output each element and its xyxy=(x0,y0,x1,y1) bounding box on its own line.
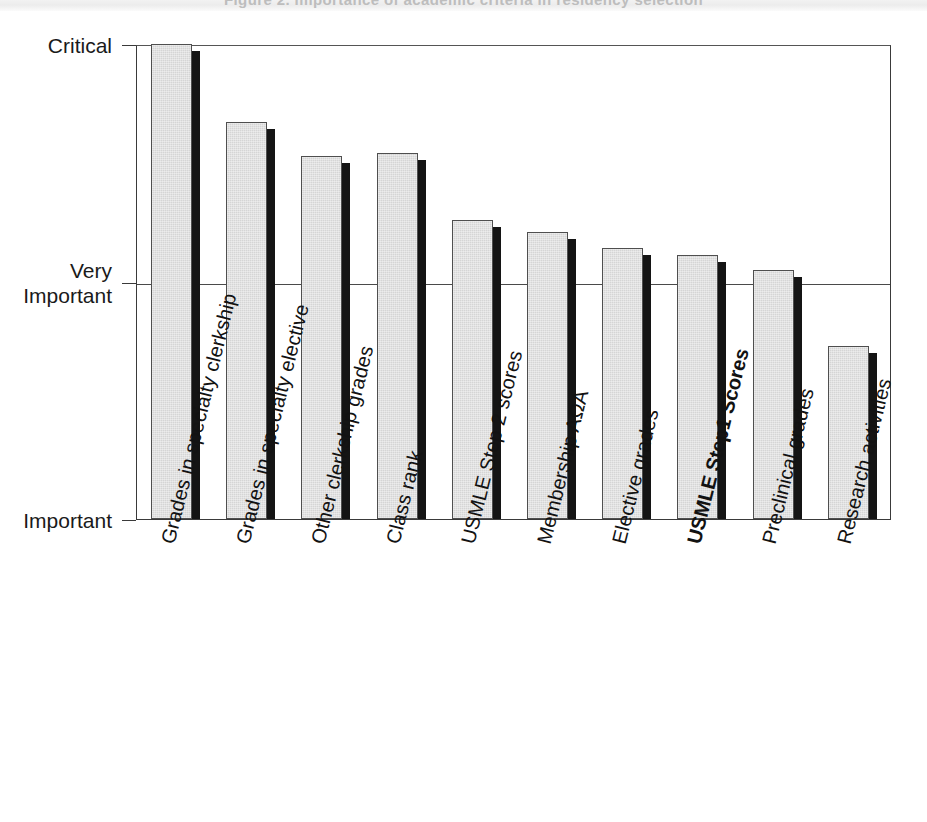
y-axis-tick xyxy=(122,520,136,521)
y-axis-label-critical: Critical xyxy=(0,33,112,58)
plot-area xyxy=(136,45,891,520)
y-axis-tick xyxy=(122,45,136,46)
bar-series xyxy=(137,46,890,519)
y-axis-tick xyxy=(122,283,136,284)
y-axis-label-very-important: Very Important xyxy=(0,258,112,308)
ghost-title-text: Figure 2. Importance of academic criteri… xyxy=(0,0,927,8)
y-axis-label-important: Important xyxy=(0,508,112,533)
cropped-title-strip: Figure 2. Importance of academic criteri… xyxy=(0,0,927,11)
chart-figure: Figure 2. Importance of academic criteri… xyxy=(0,0,927,822)
